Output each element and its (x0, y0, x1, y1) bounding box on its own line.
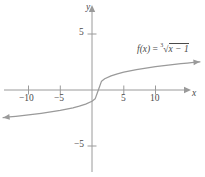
y-tick-label-5: 5 (79, 27, 84, 37)
coordinate-plot (0, 0, 205, 177)
equation-equals: = (150, 44, 160, 54)
x-tick-label-neg10: −10 (19, 93, 34, 103)
y-axis (89, 5, 95, 172)
x-tick-label-neg5: −5 (54, 93, 64, 103)
x-tick-label-5: 5 (121, 93, 126, 103)
equation-radicand: x − 1 (169, 43, 189, 54)
x-tick-label-10: 10 (150, 93, 160, 103)
equation-fx: f(x) (137, 44, 150, 54)
function-equation-label: f(x) = 3√x − 1 (137, 42, 189, 54)
graph-figure: −10 −5 5 10 5 −5 x y f(x) = 3√x − 1 (0, 0, 205, 177)
y-axis-label: y (86, 2, 90, 12)
x-axis-label: x (192, 88, 196, 98)
y-tick-label-neg5: −5 (74, 139, 84, 149)
